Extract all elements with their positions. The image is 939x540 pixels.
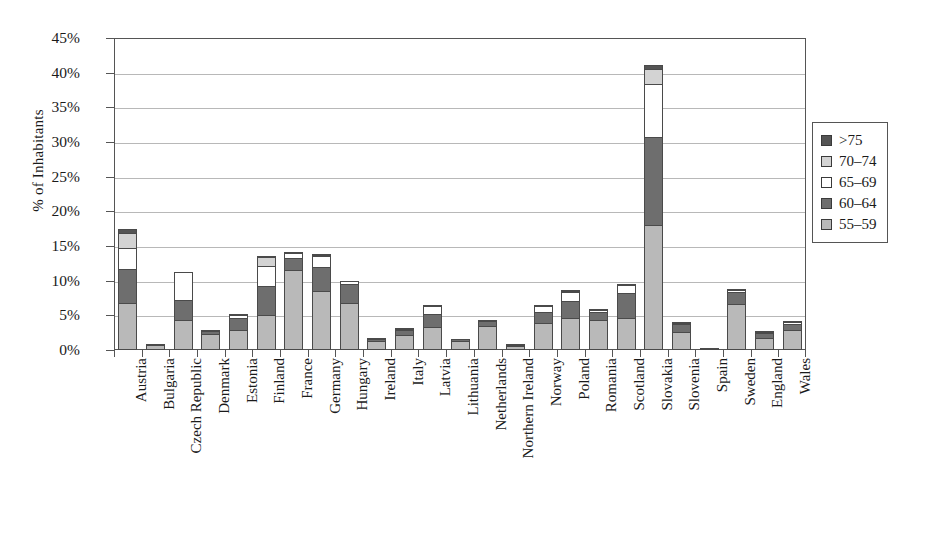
y-tick-label: 0% xyxy=(4,342,80,358)
legend-item[interactable]: 65–69 xyxy=(821,172,877,193)
bar-stack[interactable] xyxy=(700,38,719,350)
bar-segment xyxy=(589,320,608,351)
y-tick-label: 15% xyxy=(4,238,80,254)
bar-stack[interactable] xyxy=(783,38,802,350)
x-tick-mark xyxy=(142,350,143,357)
bar-segment xyxy=(395,335,414,350)
bar-segment xyxy=(118,269,137,304)
x-tick-mark xyxy=(529,350,530,357)
bar-stack[interactable] xyxy=(617,38,636,350)
bar-stack[interactable] xyxy=(451,38,470,350)
bar-stack[interactable] xyxy=(589,38,608,350)
x-tick-mark xyxy=(640,350,641,357)
x-tick-mark xyxy=(363,350,364,357)
bar-segment xyxy=(257,286,276,317)
bar-stack[interactable] xyxy=(672,38,691,350)
bar-segment xyxy=(561,301,580,319)
x-tick-mark xyxy=(557,350,558,357)
x-tick-label: Poland xyxy=(577,358,592,400)
y-tick-label: 25% xyxy=(4,169,80,185)
bar-segment xyxy=(257,315,276,350)
bar-segment xyxy=(284,270,303,350)
bar-segment xyxy=(174,300,193,321)
bar-stack[interactable] xyxy=(727,38,746,350)
bar-stack[interactable] xyxy=(644,38,663,350)
y-tick-label: 35% xyxy=(4,99,80,115)
bar-stack[interactable] xyxy=(284,38,303,350)
x-tick-label: France xyxy=(300,358,315,399)
bar-stack[interactable] xyxy=(534,38,553,350)
y-tick-label: 45% xyxy=(4,30,80,46)
x-tick-label: Romania xyxy=(604,358,619,412)
bar-stack[interactable] xyxy=(118,38,137,350)
stacked-bar-chart: % of Inhabitants 0%5%10%15%20%25%30%35%4… xyxy=(0,0,939,540)
x-tick-label: Northern Ireland xyxy=(521,358,536,458)
x-tick-mark xyxy=(751,350,752,357)
bar-stack[interactable] xyxy=(257,38,276,350)
x-tick-label: Estonia xyxy=(245,358,260,403)
bar-segment xyxy=(727,304,746,350)
x-tick-mark xyxy=(391,350,392,357)
x-tick-mark xyxy=(474,350,475,357)
bar-stack[interactable] xyxy=(367,38,386,350)
y-tick-mark xyxy=(106,350,114,351)
x-tick-mark xyxy=(723,350,724,357)
bar-stack[interactable] xyxy=(146,38,165,350)
bar-stack[interactable] xyxy=(478,38,497,350)
y-axis-tick-labels: 0%5%10%15%20%25%30%35%40%45% xyxy=(0,0,114,390)
y-tick-mark xyxy=(106,107,114,108)
x-tick-label: Germany xyxy=(328,358,343,414)
bar-segment xyxy=(118,233,137,249)
y-tick-label: 40% xyxy=(4,65,80,81)
bar-segment xyxy=(672,332,691,350)
legend-item[interactable]: 70–74 xyxy=(821,151,877,172)
x-tick-label: Italy xyxy=(411,358,426,386)
bar-stack[interactable] xyxy=(312,38,331,350)
bar-stack[interactable] xyxy=(340,38,359,350)
y-tick-mark xyxy=(106,73,114,74)
bar-segment xyxy=(617,318,636,350)
x-tick-mark xyxy=(280,350,281,357)
x-tick-label: Latvia xyxy=(438,358,453,396)
y-tick-label: 5% xyxy=(4,307,80,323)
bar-stack[interactable] xyxy=(201,38,220,350)
x-tick-mark xyxy=(668,350,669,357)
x-tick-mark xyxy=(695,350,696,357)
legend-swatch-icon xyxy=(821,198,832,209)
y-tick-mark xyxy=(106,211,114,212)
y-tick-mark xyxy=(106,246,114,247)
x-axis-ticks xyxy=(114,350,806,357)
legend-swatch-icon xyxy=(821,177,832,188)
bar-segment xyxy=(644,69,663,85)
x-tick-mark xyxy=(418,350,419,357)
bar-segment xyxy=(534,323,553,350)
bar-stack[interactable] xyxy=(755,38,774,350)
x-tick-label: Ireland xyxy=(383,358,398,400)
bar-stack[interactable] xyxy=(395,38,414,350)
x-tick-mark xyxy=(502,350,503,357)
legend-item[interactable]: >75 xyxy=(821,130,877,151)
y-tick-label: 30% xyxy=(4,134,80,150)
bar-stack[interactable] xyxy=(561,38,580,350)
x-tick-label: Scotland xyxy=(632,358,647,411)
legend-swatch-icon xyxy=(821,219,832,230)
x-tick-mark xyxy=(446,350,447,357)
x-tick-mark xyxy=(585,350,586,357)
bar-segment xyxy=(451,341,470,350)
bar-stack[interactable] xyxy=(423,38,442,350)
x-tick-label: Spain xyxy=(715,358,730,392)
legend-swatch-icon xyxy=(821,135,832,146)
bars-layer xyxy=(114,38,806,350)
bar-stack[interactable] xyxy=(229,38,248,350)
x-tick-label: Norway xyxy=(549,358,564,406)
bar-stack[interactable] xyxy=(174,38,193,350)
y-tick-mark xyxy=(106,38,114,39)
x-tick-mark xyxy=(335,350,336,357)
y-tick-label: 20% xyxy=(4,203,80,219)
bar-segment xyxy=(174,320,193,350)
legend-swatch-icon xyxy=(821,156,832,167)
legend-item[interactable]: 60–64 xyxy=(821,193,877,214)
bar-stack[interactable] xyxy=(506,38,525,350)
bar-segment xyxy=(257,266,276,287)
legend-item[interactable]: 55–59 xyxy=(821,214,877,235)
